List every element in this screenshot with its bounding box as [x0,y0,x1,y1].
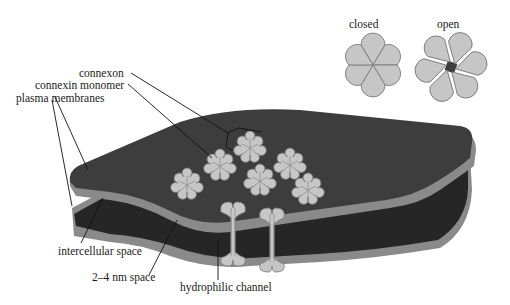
label-2-4nm-space: 2–4 nm space [92,272,155,284]
label-plasma-membranes: plasma membranes [16,93,104,105]
connexon-open-icon [412,30,489,104]
label-hydrophilic-channel: hydrophilic channel [180,282,272,294]
label-connexin-monomer: connexin monomer [35,80,124,92]
label-open: open [437,19,459,31]
connexon-closed-icon [345,33,400,97]
label-intercellular-space: intercellular space [58,246,142,258]
label-connexon: connexon [79,68,124,80]
gap-junction-illustration [0,0,510,305]
label-closed: closed [349,19,378,31]
